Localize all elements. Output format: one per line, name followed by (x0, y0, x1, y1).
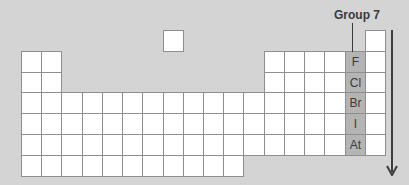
element-cell-group-7: Cl (345, 72, 366, 93)
element-cell (41, 134, 62, 156)
element-cell (122, 134, 143, 156)
element-cell (304, 92, 325, 114)
element-cell (243, 113, 265, 135)
element-cell (21, 72, 42, 93)
element-cell (365, 92, 386, 114)
element-cell-group-7: At (345, 134, 366, 156)
element-cell (223, 92, 244, 114)
element-cell (102, 92, 123, 114)
element-cell (365, 51, 386, 73)
element-cell (203, 134, 224, 156)
element-cell (264, 51, 285, 73)
arrow-down-icon (386, 164, 398, 176)
element-cell (203, 113, 224, 135)
element-cell-group-7: F (345, 51, 366, 73)
element-cell (41, 92, 62, 114)
element-cell (304, 72, 325, 93)
element-cell (163, 113, 184, 135)
element-cell (142, 155, 164, 177)
element-cell (264, 134, 285, 156)
element-cell-group-7: Br (345, 92, 366, 114)
element-cell (304, 134, 325, 156)
element-cell (41, 72, 62, 93)
element-cell (61, 155, 83, 177)
element-cell (203, 155, 224, 177)
element-cell (41, 155, 62, 177)
element-cell (41, 113, 62, 135)
element-cell (102, 113, 123, 135)
element-cell (365, 30, 386, 52)
group-7-label: Group 7 (334, 8, 380, 22)
element-cell (304, 113, 325, 135)
element-cell (122, 155, 143, 177)
element-cell (284, 134, 305, 156)
element-cell (223, 155, 244, 177)
element-cell (243, 134, 265, 156)
element-cell (82, 113, 103, 135)
element-cell (163, 155, 184, 177)
element-cell (163, 134, 184, 156)
element-cell (183, 134, 204, 156)
element-cell (61, 134, 83, 156)
element-cell (122, 92, 143, 114)
element-cell (324, 92, 346, 114)
element-cell (284, 72, 305, 93)
element-cell (324, 134, 346, 156)
element-cell (183, 113, 204, 135)
element-cell (82, 134, 103, 156)
element-cell (163, 92, 184, 114)
element-cell (365, 113, 386, 135)
element-cell (142, 92, 164, 114)
element-cell (122, 113, 143, 135)
group-label-leader-line (352, 23, 353, 52)
element-cell (365, 72, 386, 93)
element-cell (82, 92, 103, 114)
element-cell (102, 155, 123, 177)
element-cell (284, 92, 305, 114)
element-cell (324, 72, 346, 93)
element-cell (21, 51, 42, 73)
element-cell (21, 92, 42, 114)
element-cell (183, 155, 204, 177)
element-cell (203, 92, 224, 114)
element-cell (142, 113, 164, 135)
element-cell (223, 113, 244, 135)
element-cell (304, 51, 325, 73)
element-cell (365, 134, 386, 156)
element-cell (243, 92, 265, 114)
element-cell (223, 134, 244, 156)
element-cell (264, 92, 285, 114)
element-cell (21, 155, 42, 177)
element-cell (41, 51, 62, 73)
element-cell (82, 155, 103, 177)
element-cell (102, 134, 123, 156)
element-cell-group-7: I (345, 113, 366, 135)
element-cell (183, 92, 204, 114)
element-cell (142, 134, 164, 156)
element-cell (284, 51, 305, 73)
element-cell (61, 92, 83, 114)
element-cell (21, 134, 42, 156)
element-cell (21, 113, 42, 135)
element-cell (61, 113, 83, 135)
element-cell (284, 113, 305, 135)
element-cell (324, 113, 346, 135)
element-cell (264, 72, 285, 93)
down-arrow-shaft (391, 30, 393, 172)
element-cell (324, 51, 346, 73)
element-cell (264, 113, 285, 135)
element-cell (163, 30, 184, 52)
